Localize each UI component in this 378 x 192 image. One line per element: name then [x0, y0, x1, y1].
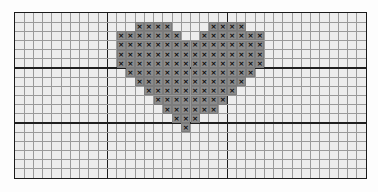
stitch-cell[interactable]: × — [237, 22, 246, 31]
stitch-cell[interactable]: × — [237, 31, 246, 40]
stitch-cell[interactable]: × — [135, 41, 144, 50]
stitch-cell[interactable]: × — [237, 50, 246, 59]
stitch-cell[interactable]: × — [154, 31, 163, 40]
stitch-cell[interactable]: × — [255, 41, 264, 50]
stitch-cell[interactable]: × — [144, 22, 153, 31]
stitch-cell[interactable]: × — [200, 68, 209, 77]
stitch-cell[interactable]: × — [163, 96, 172, 105]
stitch-cell[interactable]: × — [163, 105, 172, 114]
stitch-cell[interactable]: × — [126, 41, 135, 50]
stitch-cell[interactable]: × — [191, 77, 200, 86]
stitch-cell[interactable]: × — [172, 86, 181, 95]
stitch-cell[interactable]: × — [200, 50, 209, 59]
stitch-cell[interactable]: × — [191, 114, 200, 123]
stitch-cell[interactable]: × — [237, 68, 246, 77]
stitch-cell[interactable]: × — [218, 77, 227, 86]
stitch-cell[interactable]: × — [163, 86, 172, 95]
stitch-cell[interactable]: × — [218, 86, 227, 95]
stitch-cell[interactable]: × — [117, 41, 126, 50]
stitch-cell[interactable]: × — [200, 41, 209, 50]
stitch-cell[interactable]: × — [144, 86, 153, 95]
stitch-cell[interactable]: × — [246, 31, 255, 40]
stitch-cell[interactable]: × — [163, 31, 172, 40]
stitch-cell[interactable]: × — [181, 59, 190, 68]
stitch-cell[interactable]: × — [181, 96, 190, 105]
stitch-cell[interactable]: × — [181, 50, 190, 59]
stitch-cell[interactable]: × — [255, 50, 264, 59]
stitch-cell[interactable]: × — [200, 96, 209, 105]
stitch-cell[interactable]: × — [191, 41, 200, 50]
stitch-cell[interactable]: × — [181, 41, 190, 50]
stitch-cell[interactable]: × — [200, 105, 209, 114]
stitch-cell[interactable]: × — [255, 31, 264, 40]
stitch-cell[interactable]: × — [154, 59, 163, 68]
stitch-cell[interactable]: × — [172, 50, 181, 59]
stitch-cell[interactable]: × — [154, 41, 163, 50]
stitch-cell[interactable]: × — [209, 96, 218, 105]
stitch-cell[interactable]: × — [181, 68, 190, 77]
stitch-cell[interactable]: × — [191, 96, 200, 105]
stitch-cell[interactable]: × — [154, 68, 163, 77]
stitch-cell[interactable]: × — [144, 41, 153, 50]
stitch-cell[interactable]: × — [135, 59, 144, 68]
stitch-cell[interactable]: × — [135, 31, 144, 40]
stitch-cell[interactable]: × — [191, 86, 200, 95]
stitch-cell[interactable]: × — [200, 59, 209, 68]
stitch-cell[interactable]: × — [200, 77, 209, 86]
stitch-cell[interactable]: × — [144, 50, 153, 59]
stitch-cell[interactable]: × — [163, 59, 172, 68]
stitch-cell[interactable]: × — [255, 59, 264, 68]
stitch-cell[interactable]: × — [135, 50, 144, 59]
stitch-cell[interactable]: × — [172, 105, 181, 114]
stitch-cell[interactable]: × — [227, 41, 236, 50]
stitch-cell[interactable]: × — [237, 77, 246, 86]
stitch-cell[interactable]: × — [237, 59, 246, 68]
stitch-cell[interactable]: × — [144, 31, 153, 40]
stitch-cell[interactable]: × — [154, 96, 163, 105]
stitch-cell[interactable]: × — [209, 41, 218, 50]
stitch-cell[interactable]: × — [209, 22, 218, 31]
stitch-cell[interactable]: × — [126, 31, 135, 40]
stitch-cell[interactable]: × — [154, 22, 163, 31]
stitch-cell[interactable]: × — [163, 41, 172, 50]
stitch-cell[interactable]: × — [227, 22, 236, 31]
stitch-cell[interactable]: × — [126, 68, 135, 77]
stitch-cell[interactable]: × — [209, 50, 218, 59]
stitch-cell[interactable]: × — [227, 68, 236, 77]
stitch-cell[interactable]: × — [135, 68, 144, 77]
stitch-cell[interactable]: × — [172, 77, 181, 86]
stitch-cell[interactable]: × — [172, 114, 181, 123]
stitch-cell[interactable]: × — [181, 114, 190, 123]
stitch-cell[interactable]: × — [209, 77, 218, 86]
stitch-cell[interactable]: × — [181, 105, 190, 114]
stitch-cell[interactable]: × — [246, 50, 255, 59]
stitch-cell[interactable]: × — [227, 77, 236, 86]
stitch-cell[interactable]: × — [144, 68, 153, 77]
stitch-cell[interactable]: × — [117, 31, 126, 40]
stitch-cell[interactable]: × — [126, 59, 135, 68]
stitch-cell[interactable]: × — [218, 59, 227, 68]
stitch-cell[interactable]: × — [200, 31, 209, 40]
stitch-cell[interactable]: × — [181, 123, 190, 132]
stitch-cell[interactable]: × — [237, 41, 246, 50]
stitch-cell[interactable]: × — [172, 31, 181, 40]
stitch-cell[interactable]: × — [246, 68, 255, 77]
stitch-cell[interactable]: × — [191, 105, 200, 114]
stitch-cell[interactable]: × — [163, 68, 172, 77]
stitch-cell[interactable]: × — [144, 59, 153, 68]
stitch-cell[interactable]: × — [209, 31, 218, 40]
stitch-cell[interactable]: × — [227, 86, 236, 95]
stitch-cell[interactable]: × — [218, 96, 227, 105]
stitch-cells[interactable]: ××××××××××××××××××××××××××××××××××××××××… — [15, 13, 366, 178]
stitch-cell[interactable]: × — [209, 68, 218, 77]
stitch-cell[interactable]: × — [227, 31, 236, 40]
stitch-cell[interactable]: × — [117, 59, 126, 68]
stitch-cell[interactable]: × — [209, 86, 218, 95]
stitch-cell[interactable]: × — [135, 77, 144, 86]
stitch-cell[interactable]: × — [218, 22, 227, 31]
stitch-cell[interactable]: × — [218, 68, 227, 77]
stitch-cell[interactable]: × — [200, 86, 209, 95]
stitch-cell[interactable]: × — [209, 105, 218, 114]
stitch-cell[interactable]: × — [191, 50, 200, 59]
stitch-cell[interactable]: × — [227, 59, 236, 68]
